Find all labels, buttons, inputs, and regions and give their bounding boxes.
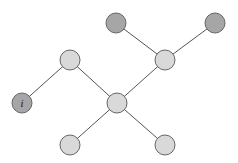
graph-node [107,93,127,113]
node-circle [60,50,80,70]
graph-node [205,13,225,33]
node-circle [155,135,175,155]
node-circle [205,13,225,33]
edges-layer [22,23,215,145]
node-circle [60,135,80,155]
graph-diagram: i [0,0,238,163]
node-circle [106,13,126,33]
graph-node [155,50,175,70]
graph-node [155,135,175,155]
graph-node [60,50,80,70]
graph-node [106,13,126,33]
node-circle [155,50,175,70]
graph-node [60,135,80,155]
node-label: i [20,98,23,109]
node-circle [107,93,127,113]
graph-svg: i [0,0,238,163]
graph-node: i [12,93,32,113]
